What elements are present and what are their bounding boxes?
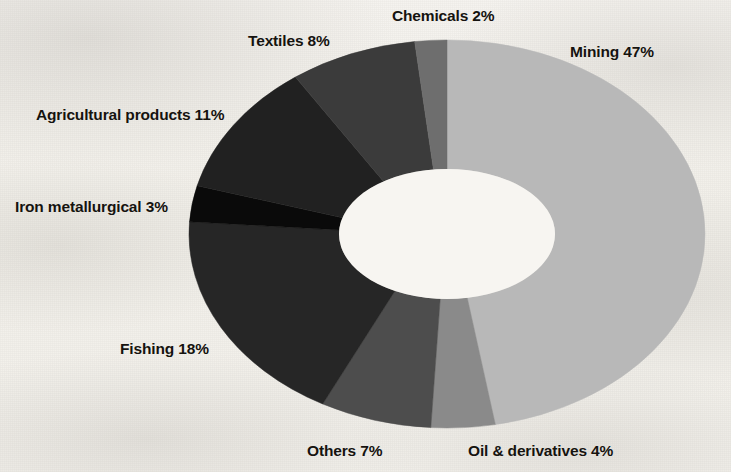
slice-label-chemicals: Chemicals 2% bbox=[392, 8, 494, 24]
slice-label-others: Others 7% bbox=[307, 443, 382, 459]
slice-label-mining: Mining 47% bbox=[570, 44, 654, 60]
donut-chart-svg bbox=[0, 0, 731, 472]
slice-label-iron-metallurgical: Iron metallurgical 3% bbox=[15, 199, 168, 215]
slice-label-oil-derivatives: Oil & derivatives 4% bbox=[468, 443, 613, 459]
slice-label-textiles: Textiles 8% bbox=[248, 33, 330, 49]
slice-label-agricultural-products: Agricultural products 11% bbox=[36, 107, 224, 123]
donut-chart: Mining 47%Oil & derivatives 4%Others 7%F… bbox=[0, 0, 731, 472]
donut-center-hole bbox=[339, 169, 555, 299]
slice-label-fishing: Fishing 18% bbox=[120, 341, 209, 357]
